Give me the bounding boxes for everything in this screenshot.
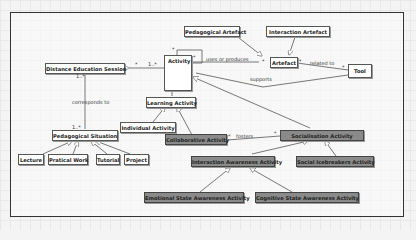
mult-fosters-2: *	[274, 130, 277, 136]
label-supports: supports	[250, 76, 272, 82]
class-project: Project	[124, 154, 149, 165]
mult-activity-1n: 1..*	[148, 61, 157, 67]
class-cognitive-state-awareness-activity: Cognitive State Awareness Activity	[255, 192, 359, 203]
label-related-to: related to	[310, 60, 334, 66]
class-interaction-artefact: Interaction Artefact	[266, 26, 330, 37]
class-socialisation-activity: Socialisation Activity	[280, 130, 364, 141]
class-social-icebreakers-activity: Social Icebreakers Activity	[296, 156, 374, 167]
mult-des-star: *	[135, 61, 138, 67]
class-individual-activity: Individual Activity	[120, 122, 176, 133]
class-artefact: Artefact	[270, 57, 298, 68]
mult-fosters-1: *	[228, 133, 231, 139]
class-emotional-state-awareness-activity: Emotional State Awareness Activity	[144, 192, 244, 203]
mult-self-1: *	[172, 46, 175, 52]
label-corresponds-to: corresponds to	[72, 99, 109, 105]
class-activity: Activity	[164, 55, 192, 91]
class-interaction-awareness-activity: Interaction Awareness Activity	[191, 156, 275, 167]
label-uses-or-produces: uses or produces	[206, 56, 249, 62]
class-distance-education-session: Distance Education Session	[45, 63, 125, 74]
class-pedagogical-artefact: Pedagogical Artefact	[184, 26, 240, 37]
class-learning-activity: Learning Activity	[146, 97, 196, 108]
mult-ps-1n: 1..*	[72, 124, 81, 130]
mult-tool-star: *	[342, 64, 345, 70]
mult-des-1n: 1..*	[76, 73, 85, 79]
mult-artefact-star: *	[262, 58, 265, 64]
class-pratical-work: Pratical Work	[48, 154, 88, 165]
class-pedagogical-situation: Pedagogical Situation	[52, 130, 118, 141]
class-collaborative-activity: Collaborative Activity	[165, 134, 227, 145]
class-lecture: Lecture	[18, 154, 44, 165]
class-tutorial: Tutorial	[96, 154, 120, 165]
mult-artefact-rel: *	[299, 58, 302, 64]
class-tool: Tool	[348, 64, 372, 78]
mult-self-2: *	[193, 54, 196, 60]
label-fosters: fosters	[236, 133, 253, 139]
